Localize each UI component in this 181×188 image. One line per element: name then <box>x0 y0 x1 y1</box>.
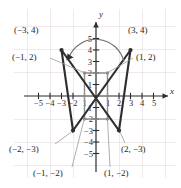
x-tick-label: −4 <box>45 98 55 108</box>
x-tick-label: 2 <box>117 98 121 108</box>
point-label-3-4: (3, 4) <box>128 25 148 35</box>
x-tick-label: −5 <box>34 98 43 108</box>
y-tick-label: 5 <box>88 34 92 44</box>
rotation-arrow-icon <box>67 39 125 62</box>
x-tick-label: 5 <box>152 98 156 108</box>
y-axis-label: y <box>98 9 103 19</box>
coordinate-plane-figure: −5 −4 −3 −2 1 1 2 3 4 5 5 4 3 2 1 1 −2 −… <box>0 0 181 188</box>
vertex-neg3-4 <box>59 48 63 52</box>
y-tick-label: 4 <box>88 45 93 55</box>
y-tick-label: −5 <box>84 149 93 159</box>
leader-1-neg2 <box>108 120 111 167</box>
point-label-1-2: (1, 2) <box>136 52 156 62</box>
vertex-2-neg3 <box>117 128 121 132</box>
leader-2-neg3 <box>120 132 125 143</box>
y-axis-arrowhead <box>93 22 99 28</box>
point-label-neg2-neg3: (−2, −3) <box>9 144 39 154</box>
vertex-3-4 <box>128 48 132 52</box>
x-axis-label: x <box>169 86 174 96</box>
point-label-2-neg3: (2, −3) <box>121 144 146 154</box>
x-tick-label: 3 <box>129 98 133 108</box>
point-label-neg3-4: (−3, 4) <box>14 25 39 35</box>
vertex-neg2-neg3 <box>71 128 75 132</box>
point-label-neg1-neg2: (−1, −2) <box>33 168 63 178</box>
y-tick-label: −3 <box>84 126 93 136</box>
graph-svg: −5 −4 −3 −2 1 1 2 3 4 5 5 4 3 2 1 1 −2 −… <box>0 0 181 188</box>
y-tick-label: 3 <box>88 57 92 67</box>
point-label-1-neg2: (1, −2) <box>104 168 129 178</box>
x-tick-label: 4 <box>140 98 145 108</box>
vertex-neg1-neg2 <box>83 117 86 120</box>
x-tick-label: −3 <box>57 98 66 108</box>
y-tick-label: −4 <box>84 137 94 147</box>
point-label-neg1-2: (−1, 2) <box>12 52 37 62</box>
